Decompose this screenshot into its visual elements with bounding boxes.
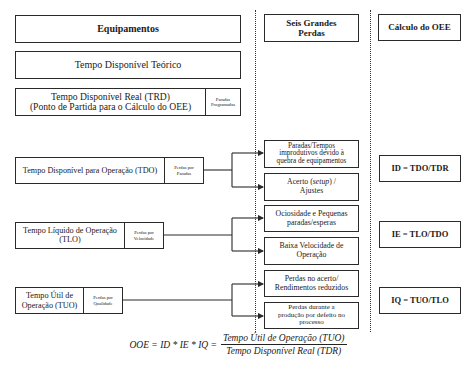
loss-box-idling: Ociosidade e Pequenas paradas/esperas xyxy=(264,205,359,232)
loss-box-setup: Acerto (setup) / Ajustes xyxy=(264,173,359,201)
loss-3-line2: paradas/esperas xyxy=(287,219,336,228)
index-id-formula: ID = TDO/TDR xyxy=(391,164,448,174)
loss-box-reduced-speed: Baixa Velocidade de Operação xyxy=(264,237,359,265)
oee-formula-denominator: Tempo Disponível Real (TDR) xyxy=(224,345,343,356)
oee-formula-numerator: Tempo Útil de Operação (TUO) xyxy=(221,333,347,345)
loss-6-line3: processo xyxy=(299,319,324,326)
loss-1-line3: quebra de equipamentos xyxy=(277,158,347,166)
oee-formula: OOE = ID * IE * IQ = Tempo Útil de Opera… xyxy=(0,333,476,356)
loss-box-defects: Perdas durante a produção por defeito no… xyxy=(264,302,359,329)
connector-arrows xyxy=(0,0,476,375)
loss-2-post: ) / xyxy=(329,177,336,186)
index-ie-formula: IE = TLO/TDO xyxy=(392,230,449,240)
index-box-efficiency: IE = TLO/TDO xyxy=(379,221,461,248)
loss-box-startup-yield: Perdas no acerto/ Rendimentos reduzidos xyxy=(264,270,359,297)
loss-4-line2: Operação xyxy=(297,251,327,260)
index-box-quality: IQ = TUO/TLO xyxy=(379,287,461,314)
loss-2-line2: Ajustes xyxy=(300,187,323,196)
loss-5-line2: Rendimentos reduzidos xyxy=(275,284,348,293)
loss-box-breakdowns: Paradas/Tempos improdutivos devido à que… xyxy=(264,140,359,168)
index-iq-formula: IQ = TUO/TLO xyxy=(391,296,449,306)
index-box-availability: ID = TDO/TDR xyxy=(379,155,461,182)
oee-formula-lhs: OOE = ID * IE * IQ = xyxy=(129,340,217,350)
oee-formula-fraction: Tempo Útil de Operação (TUO) Tempo Dispo… xyxy=(221,333,347,356)
